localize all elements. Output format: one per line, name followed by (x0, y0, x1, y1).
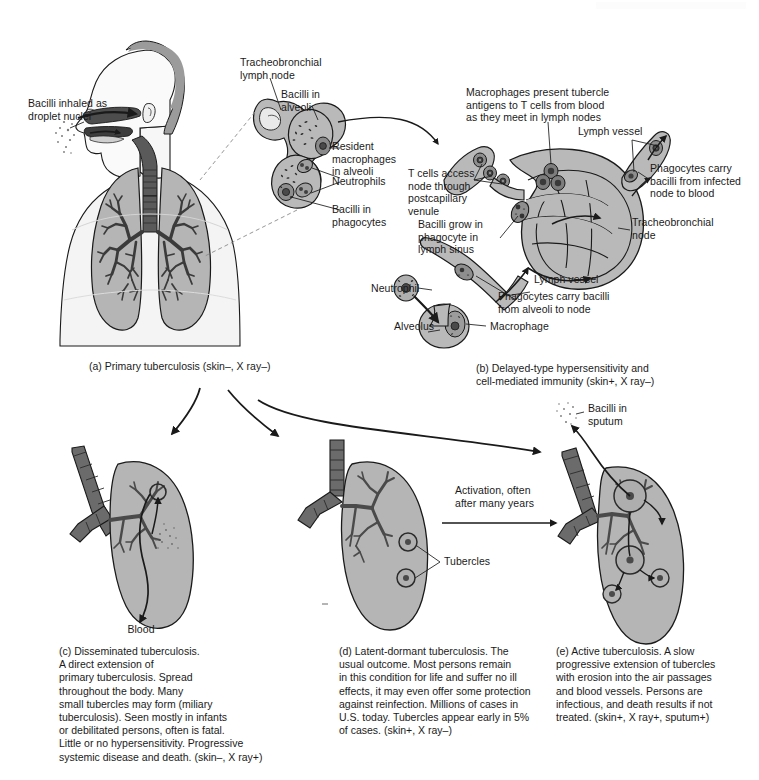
page-top-band (596, 2, 746, 9)
tubercle-node (397, 533, 417, 587)
label-phagocytes-carry-to-blood: Phagocytes carry bacilli from infected n… (650, 162, 758, 200)
panel-a-alveoli-cluster (200, 99, 346, 256)
label-tracheobronchial-node: Tracheobronchial node (632, 216, 742, 241)
label-activation-after-years: Activation, often after many years (455, 484, 565, 509)
label-macrophage: Macrophage (490, 320, 570, 333)
label-tracheobronchial-lymph-node: Tracheobronchial lymph node (240, 56, 360, 81)
panel-transition-arrows (172, 388, 540, 452)
label-neutrophil: Neutrophil (371, 282, 433, 295)
panel-d-caption: (d) Latent-dormant tuberculosis. The usu… (339, 645, 589, 737)
panel-d-lung (298, 440, 440, 630)
panel-e-lung (556, 402, 683, 644)
label-lymph-vessel-mid: Lymph vessel (534, 273, 624, 286)
label-macrophages-present-antigens: Macrophages present tubercle antigens to… (466, 86, 676, 124)
panel-e-caption: (e) Active tuberculosis. A slow progress… (556, 645, 756, 724)
panel-b-caption: (b) Delayed-type hypersensitivity and ce… (476, 362, 726, 388)
label-t-cells-access-node: T cells access node through postcapillar… (408, 167, 488, 217)
panel-c-caption: (c) Disseminated tuberculosis. A direct … (59, 645, 329, 764)
label-blood: Blood (111, 623, 171, 636)
label-lymph-vessel-top: Lymph vessel (578, 125, 668, 138)
label-phagocytes-carry-from-alveoli: Phagocytes carry bacilli from alveoli to… (498, 290, 658, 315)
label-bacilli-grow-in-phagocyte: Bacilli grow in phagocyte in lymph sinus (418, 218, 508, 256)
label-tubercles: Tubercles (444, 555, 524, 568)
label-alveolus: Alveolus (394, 320, 456, 333)
cavity-tubercle (603, 480, 669, 603)
label-bacilli-in-sputum: Bacilli in sputum (588, 402, 668, 427)
figure-canvas: Bacilli inhaled as droplet nuclei Trache… (0, 0, 759, 780)
label-bacilli-inhaled: Bacilli inhaled as droplet nuclei (28, 97, 148, 122)
panel-c-lung (70, 446, 193, 628)
panel-a-torso (55, 41, 240, 346)
panel-a-caption: (a) Primary tuberculosis (skin–, X ray–) (89, 360, 319, 373)
label-bacilli-in-alveoli: Bacilli in alveoli (281, 88, 361, 113)
